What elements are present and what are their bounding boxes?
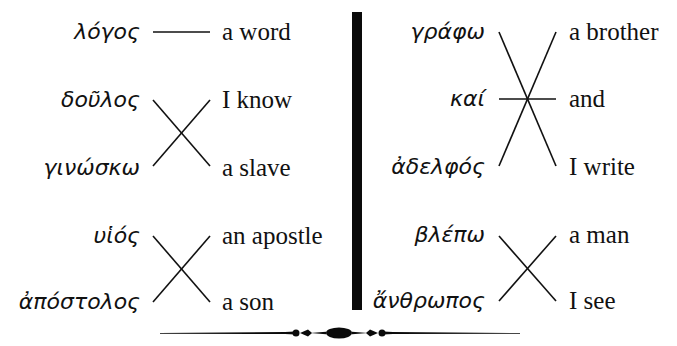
ornament-rule — [160, 328, 520, 339]
matching-lines — [0, 0, 677, 346]
